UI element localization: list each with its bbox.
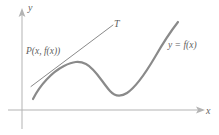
figure-canvas (0, 0, 219, 135)
function-curve (33, 22, 178, 99)
tangent-line-label: T (114, 19, 120, 29)
x-axis-label: x (206, 106, 210, 116)
tangent-line-figure: y x T P(x, f(x)) y = f(x) (0, 0, 219, 135)
function-curve-label: y = f(x) (168, 41, 197, 51)
y-axis-label: y (28, 3, 32, 13)
point-of-tangency-label: P(x, f(x)) (26, 47, 60, 57)
